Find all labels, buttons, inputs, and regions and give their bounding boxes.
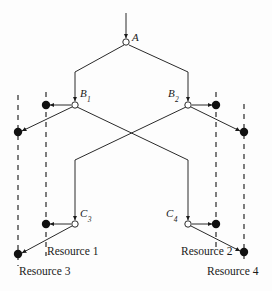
edge-b1-cross-c4: [77, 107, 188, 220]
node-label-text: B: [80, 87, 87, 99]
node-label-subscript: 1: [87, 95, 91, 104]
node-label-text: A: [132, 31, 139, 43]
edge-b1-to-lower: [22, 107, 72, 131]
node-c4[interactable]: [185, 221, 191, 227]
node-a[interactable]: [123, 39, 129, 45]
dot-b2-right: [212, 101, 220, 109]
node-label-c3: C3: [80, 208, 91, 222]
node-label-text: C: [80, 207, 87, 219]
node-label-subscript: 2: [175, 95, 179, 104]
node-label-b1: B1: [80, 88, 90, 102]
node-label-a: A: [132, 32, 139, 43]
node-label-c4: C4: [166, 208, 177, 222]
dot-c4-lower: [240, 248, 248, 256]
node-label-text: B: [168, 87, 175, 99]
edge-b2-cross-c3: [75, 107, 186, 220]
edge-group: [22, 13, 240, 253]
dot-b1-left: [42, 101, 50, 109]
dashed-resource-lines: [18, 92, 244, 266]
node-label-subscript: 3: [88, 215, 92, 224]
edge-a-to-b2: [129, 45, 188, 101]
node-label-text: C: [166, 207, 173, 219]
node-label-subscript: 4: [174, 215, 178, 224]
dot-b2-lower: [240, 128, 248, 136]
terminal-dots: [14, 101, 248, 258]
resource-label-1: Resource 1: [47, 246, 98, 258]
node-c3[interactable]: [72, 221, 78, 227]
resource-label-4: Resource 4: [207, 266, 258, 278]
dot-c3-lower: [14, 250, 22, 258]
edge-b2-to-lower: [191, 107, 240, 131]
node-b1[interactable]: [72, 102, 78, 108]
dot-c4-right: [212, 220, 220, 228]
node-label-b2: B2: [168, 88, 178, 102]
dot-b1-lower: [14, 128, 22, 136]
resource-label-3: Resource 3: [19, 266, 70, 278]
dot-c3-left: [42, 220, 50, 228]
node-b2[interactable]: [185, 102, 191, 108]
resource-allocation-diagram: AB1B2C3C4Resource 1Resource 2Resource 3R…: [0, 0, 272, 291]
resource-label-2: Resource 2: [181, 246, 232, 258]
